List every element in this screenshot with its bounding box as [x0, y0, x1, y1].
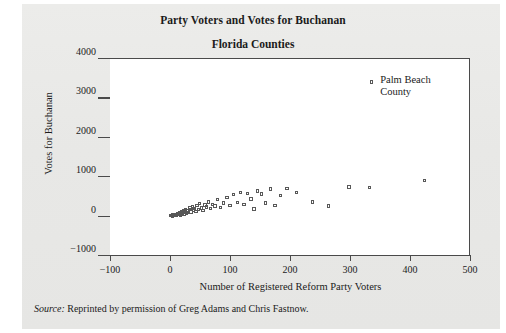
data-point [213, 204, 216, 207]
data-point [232, 193, 235, 196]
y-tick-mark [98, 137, 110, 138]
x-tick-label: 400 [385, 264, 435, 275]
data-point [264, 201, 267, 204]
data-point [311, 200, 314, 203]
data-point [260, 192, 263, 195]
x-tick-label: 0 [145, 264, 195, 275]
y-tick-mark [98, 255, 110, 256]
data-point [225, 196, 228, 199]
data-point [228, 204, 231, 207]
data-point [269, 187, 272, 190]
x-tick-label: 300 [325, 264, 375, 275]
x-tick-mark [410, 255, 411, 261]
data-point [239, 191, 242, 194]
data-point [347, 185, 350, 188]
y-tick-mark [98, 176, 110, 177]
x-tick-mark [290, 255, 291, 261]
data-point [201, 209, 204, 212]
data-point [285, 187, 288, 190]
x-tick-mark [230, 255, 231, 261]
y-tick-label: 4000 [36, 46, 96, 57]
data-point [209, 207, 212, 210]
data-point [236, 201, 239, 204]
source-prefix: Source: [34, 303, 65, 314]
y-tick-mark [98, 97, 110, 98]
data-point [242, 203, 245, 206]
x-tick-label: 100 [205, 264, 255, 275]
x-tick-mark [470, 255, 471, 261]
x-tick-mark [350, 255, 351, 261]
data-point [249, 197, 252, 200]
data-point [279, 194, 282, 197]
palm-beach-annotation: Palm Beach County [380, 74, 430, 97]
figure-container: Party Voters and Votes for Buchanan Flor… [0, 0, 506, 333]
source-note: Source: Reprinted by permission of Greg … [34, 303, 309, 314]
y-axis-label: Votes for Buchanan [43, 64, 54, 204]
data-point [216, 198, 219, 201]
y-tick-mark [98, 216, 110, 217]
data-point [370, 80, 373, 83]
y-tick-label: −1000 [36, 243, 96, 254]
x-tick-mark [170, 255, 171, 261]
chart-title: Party Voters and Votes for Buchanan [0, 14, 506, 26]
data-point [219, 206, 222, 209]
x-tick-label: 500 [445, 264, 495, 275]
data-point [327, 204, 330, 207]
y-tick-mark [98, 58, 110, 59]
x-axis-label: Number of Registered Reform Party Voters [110, 281, 471, 292]
x-tick-label: −100 [85, 264, 135, 275]
data-point [222, 201, 225, 204]
data-point [207, 200, 210, 203]
x-tick-label: 200 [265, 264, 315, 275]
data-point [198, 202, 201, 205]
x-tick-mark [110, 255, 111, 261]
data-point [273, 204, 276, 207]
data-point [246, 192, 249, 195]
y-tick-label: 0 [36, 204, 96, 215]
data-point [252, 207, 255, 210]
data-point [423, 179, 426, 182]
source-text: Reprinted by permission of Greg Adams an… [65, 303, 309, 314]
data-point [295, 191, 298, 194]
data-point [368, 186, 371, 189]
